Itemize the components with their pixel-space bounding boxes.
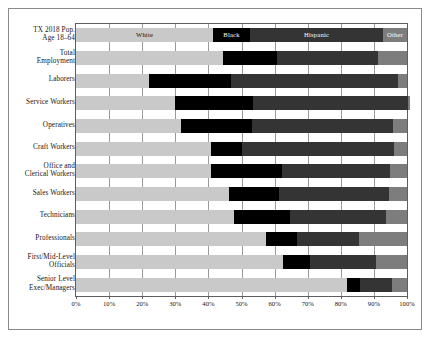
bar-row [76,74,407,88]
x-tick-label-0%: 0% [72,300,81,307]
stacked-bar-chart: TX 2018 Pop. Age 18–64Total EmploymentLa… [9,9,423,331]
bar-row [76,210,407,224]
category-label: Total Employment [13,49,75,66]
bar-segment-hispanic [310,255,376,269]
bar-segment-other [376,255,407,269]
bar-segment-other [392,278,407,292]
bar-segment-white [76,74,149,88]
x-tick-label-50%: 50% [235,300,247,307]
bar-row [76,255,407,269]
bar-segment-black [283,255,310,269]
category-label: Technicians [13,211,75,219]
bar-segment-hispanic [242,142,394,156]
x-tick-70% [308,296,309,299]
bar-segment-black [175,96,253,110]
bar-row [76,142,407,156]
bar-segment-other [389,187,407,201]
x-tick-label-30%: 30% [169,300,181,307]
bar-row [76,51,407,65]
bar-segment-other [394,142,407,156]
bar-segment-other [386,210,407,224]
category-label: Office and Clerical Workers [13,162,75,179]
x-tick-10% [109,296,110,299]
bar-segment-hispanic [277,51,378,65]
bar-segment-black [211,164,282,178]
x-tick-20% [142,296,143,299]
legend-label-other: Other [383,28,407,42]
bar-segment-hispanic [279,187,389,201]
x-tick-50% [242,296,243,299]
bar-segment-hispanic [282,164,390,178]
bar-segment-white [76,187,229,201]
bar-segment-black [234,210,290,224]
bar-segment-hispanic [231,74,398,88]
x-tick-label-10%: 10% [103,300,115,307]
plot-area: WhiteBlackHispanicOther [75,23,408,297]
category-label: First/Mid-Level Officials [13,253,75,270]
x-axis: 0%10%20%30%40%50%60%70%80%90%100% [75,296,408,312]
bar-segment-white [76,142,211,156]
bar-segment-white [76,255,283,269]
bar-row [76,119,407,133]
bar-segment-other [390,164,407,178]
legend-label-white: White [76,28,213,42]
bar-segment-black [211,142,242,156]
category-label: Operatives [13,121,75,129]
x-tick-60% [275,296,276,299]
bar-row [76,164,407,178]
bar-segment-white [76,96,175,110]
bar-segment-other [408,96,410,110]
bar-segment-white [76,210,234,224]
bar-segment-white [76,51,223,65]
bar-segment-hispanic [252,119,393,133]
category-label: Sales Workers [13,189,75,197]
bar-segment-black [149,74,231,88]
bar-segment-white [76,232,266,246]
bar-segment-black [229,187,279,201]
bar-segment-hispanic [297,232,359,246]
bar-segment-hispanic [253,96,408,110]
bar-segment-white [76,278,347,292]
bar-segment-black [266,232,297,246]
category-label-column: TX 2018 Pop. Age 18–64Total EmploymentLa… [9,9,75,331]
bar-segment-white [76,119,181,133]
x-tick-90% [374,296,375,299]
x-tick-label-100%: 100% [399,300,414,307]
x-tick-30% [175,296,176,299]
bar-segment-black [347,278,360,292]
bar-row [76,96,407,110]
x-tick-80% [341,296,342,299]
bar-segment-other [378,51,407,65]
chart-frame: TX 2018 Pop. Age 18–64Total EmploymentLa… [8,8,422,330]
x-tick-label-20%: 20% [136,300,148,307]
bar-row [76,278,407,292]
bar-row [76,232,407,246]
legend-label-hispanic: Hispanic [250,28,383,42]
bar-segment-hispanic [290,210,386,224]
bar-segment-other [393,119,407,133]
category-label: Laborers [13,75,75,83]
x-tick-label-70%: 70% [302,300,314,307]
x-tick-40% [208,296,209,299]
x-tick-label-40%: 40% [202,300,214,307]
bar-row: WhiteBlackHispanicOther [76,28,407,42]
x-tick-100% [407,296,408,299]
x-tick-label-90%: 90% [368,300,380,307]
category-label: Craft Workers [13,143,75,151]
bar-segment-other [359,232,407,246]
category-label: TX 2018 Pop. Age 18–64 [13,26,75,43]
bar-row [76,187,407,201]
x-tick-label-80%: 80% [335,300,347,307]
legend-label-black: Black [213,28,250,42]
category-label: Senior Level Exec/Managers [13,275,75,292]
category-label: Service Workers [13,98,75,106]
bar-segment-white [76,164,211,178]
bar-segment-other [398,74,407,88]
category-label: Professionals [13,234,75,242]
bar-segment-black [181,119,252,133]
x-tick-0% [76,296,77,299]
x-tick-label-60%: 60% [269,300,281,307]
bar-segment-black [223,51,277,65]
bar-segment-hispanic [360,278,392,292]
